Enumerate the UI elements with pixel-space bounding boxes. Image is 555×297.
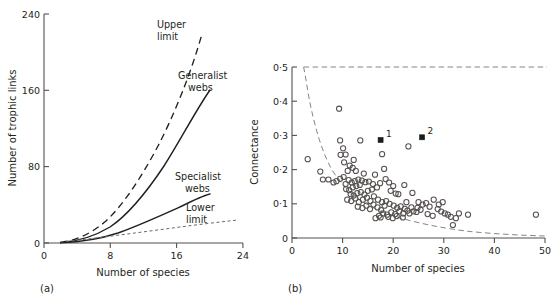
figure-container: 240 160 80 0 0 8 16 24 [0, 0, 555, 297]
panel-a-ylabel: Number of trophic links [7, 69, 18, 186]
label-lower-limit-line2: limit [186, 214, 207, 225]
panel-b-xtick-0: 0 [289, 245, 295, 256]
data-point [410, 190, 415, 195]
panel-b-scatter [305, 106, 538, 227]
data-point [345, 168, 350, 173]
data-point [358, 138, 363, 143]
panel-b-ytick-03: 0·3 [273, 130, 288, 141]
data-point [440, 200, 445, 205]
panel-b-ytick-05: 0·5 [273, 62, 288, 73]
panel-b-ylabel: Connectance [249, 119, 260, 184]
data-point [338, 152, 343, 157]
panel-a-ytick-0: 0 [34, 238, 40, 249]
label-generalist-webs-line1: Generalist [178, 70, 227, 81]
data-point [361, 171, 366, 176]
data-point [465, 212, 470, 217]
panel-b-y-ticks: 0·5 0·4 0·3 0·2 0·1 0 [273, 62, 297, 244]
panel-a-curve-labels: Upper limit Generalist webs Specialist w… [157, 19, 227, 225]
data-point [367, 207, 372, 212]
data-point [375, 205, 380, 210]
labelled-point-2-label: 2 [428, 126, 434, 136]
data-point [453, 216, 458, 221]
data-point [425, 212, 430, 217]
data-point [326, 177, 331, 182]
data-point [431, 197, 436, 202]
data-point [388, 188, 393, 193]
panel-b-xtick-30: 30 [438, 245, 450, 256]
panel-b-x-ticks: 0 10 20 30 40 50 [289, 238, 551, 256]
data-point [343, 152, 348, 157]
panel-a-xtick-8: 8 [107, 250, 113, 261]
data-point [382, 166, 387, 171]
label-upper-limit-line1: Upper [157, 19, 186, 30]
label-specialist-webs-line2: webs [185, 183, 210, 194]
panel-b-xlabel: Number of species [371, 263, 465, 274]
panel-a: 240 160 80 0 0 8 16 24 [7, 9, 249, 295]
data-point [342, 160, 347, 165]
data-point [357, 182, 362, 187]
panel-a-xtick-24: 24 [237, 250, 249, 261]
panel-a-ytick-80: 80 [28, 161, 40, 172]
labelled-point-1-label: 1 [386, 129, 392, 139]
panel-b-labelled-points: 1 2 [378, 126, 433, 143]
panel-a-xtick-16: 16 [171, 250, 183, 261]
figure-svg: 240 160 80 0 0 8 16 24 [0, 0, 555, 297]
labelled-point-2-marker [420, 135, 425, 140]
label-lower-limit-line1: Lower [186, 202, 215, 213]
data-point [338, 138, 343, 143]
data-point [380, 152, 385, 157]
panel-a-ytick-160: 160 [22, 85, 40, 96]
data-point [450, 222, 455, 227]
data-point [341, 146, 346, 151]
curve-lower-limit [61, 220, 238, 242]
panel-b-ytick-02: 0·2 [273, 164, 288, 175]
data-point [383, 177, 388, 182]
data-point [305, 157, 310, 162]
panel-b-label: (b) [288, 283, 302, 294]
panel-a-label: (a) [40, 283, 54, 294]
panel-b-ytick-01: 0·1 [273, 198, 288, 209]
data-point [337, 106, 342, 111]
labelled-point-1-marker [378, 138, 383, 143]
data-point [374, 185, 379, 190]
panel-b-ytick-0: 0 [282, 233, 288, 244]
data-point [427, 204, 432, 209]
panel-a-y-ticks: 240 160 80 0 [22, 9, 49, 249]
panel-a-ytick-240: 240 [22, 9, 40, 20]
panel-b-xtick-10: 10 [337, 245, 349, 256]
data-point [406, 144, 411, 149]
data-point [353, 168, 358, 173]
data-point [404, 200, 409, 205]
data-point [318, 169, 323, 174]
data-point [402, 182, 407, 187]
panel-b-xtick-20: 20 [387, 245, 399, 256]
label-generalist-webs-line2: webs [188, 82, 213, 93]
label-specialist-webs-line1: Specialist [175, 171, 221, 182]
panel-a-xtick-0: 0 [41, 250, 47, 261]
panel-b-xtick-50: 50 [539, 245, 551, 256]
data-point [430, 213, 435, 218]
panel-b-xtick-40: 40 [488, 245, 500, 256]
data-point [372, 172, 377, 177]
panel-b-ytick-04: 0·4 [273, 96, 288, 107]
panel-a-x-ticks: 0 8 16 24 [41, 243, 249, 261]
boundary-upper-limit-curve [304, 67, 546, 236]
label-upper-limit-line2: limit [157, 31, 178, 42]
data-point [456, 211, 461, 216]
panel-a-xlabel: Number of species [96, 267, 190, 278]
data-point [351, 157, 356, 162]
data-point [533, 212, 538, 217]
data-point [320, 177, 325, 182]
panel-b: 0·5 0·4 0·3 0·2 0·1 0 0 10 20 30 40 50 [249, 62, 551, 295]
